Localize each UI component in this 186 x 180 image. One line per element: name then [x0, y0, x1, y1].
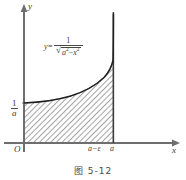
radicand-x-exponent: 2	[77, 47, 80, 53]
figure-caption: 图 5-12	[0, 167, 186, 176]
x-tick-label-a-minus-epsilon: a−ε	[88, 145, 101, 153]
plot-canvas	[0, 0, 186, 180]
x-axis-label: x	[172, 146, 176, 155]
y-axis-label: y	[28, 2, 32, 11]
radical-sign: √	[56, 46, 61, 55]
curve-equation-annotation: y= 1 √ a2−x2	[44, 36, 83, 57]
equation-fraction: 1 √ a2−x2	[54, 36, 83, 57]
y-tick-label-one-over-a: 1 a	[11, 99, 18, 119]
x-tick-label-a: a	[110, 145, 114, 153]
radicand: a2−x2	[61, 47, 81, 57]
y-tick-denominator: a	[11, 109, 18, 119]
figure-container: y x O 1 a a−ε a y= 1 √ a2−x2 图 5-12	[0, 0, 186, 180]
origin-label: O	[14, 145, 21, 154]
radical-group: √ a2−x2	[56, 47, 81, 57]
equation-lhs: y=	[44, 43, 54, 51]
equation-denominator: √ a2−x2	[54, 46, 83, 57]
